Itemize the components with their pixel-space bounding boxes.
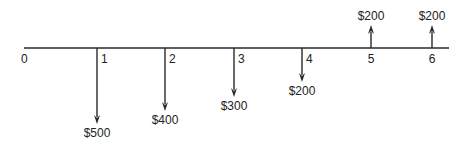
period-6: 6$200: [419, 9, 446, 66]
period-label: 3: [238, 52, 245, 66]
period-4: 4$200: [289, 48, 316, 98]
period-label: 1: [101, 52, 108, 66]
period-0: 0: [21, 52, 28, 66]
cash-flow-amount: $300: [221, 99, 248, 113]
cash-flow-diagram: 01$5002$4003$3004$2005$2006$200: [0, 0, 474, 149]
period-1: 1$500: [84, 48, 111, 140]
period-label: 2: [169, 52, 176, 66]
period-label: 0: [21, 52, 28, 66]
cash-flow-amount: $400: [152, 113, 179, 127]
period-3: 3$300: [221, 48, 248, 113]
period-2: 2$400: [152, 48, 179, 127]
period-label: 5: [368, 52, 375, 66]
period-label: 4: [306, 52, 313, 66]
cash-flow-amount: $200: [358, 9, 385, 23]
cash-flow-amount: $200: [419, 9, 446, 23]
period-label: 6: [429, 52, 436, 66]
cash-flow-amount: $200: [289, 84, 316, 98]
cash-flow-amount: $500: [84, 126, 111, 140]
period-5: 5$200: [358, 9, 385, 66]
diagram-canvas: 01$5002$4003$3004$2005$2006$200: [0, 0, 474, 149]
periods-group: 01$5002$4003$3004$2005$2006$200: [21, 9, 446, 140]
